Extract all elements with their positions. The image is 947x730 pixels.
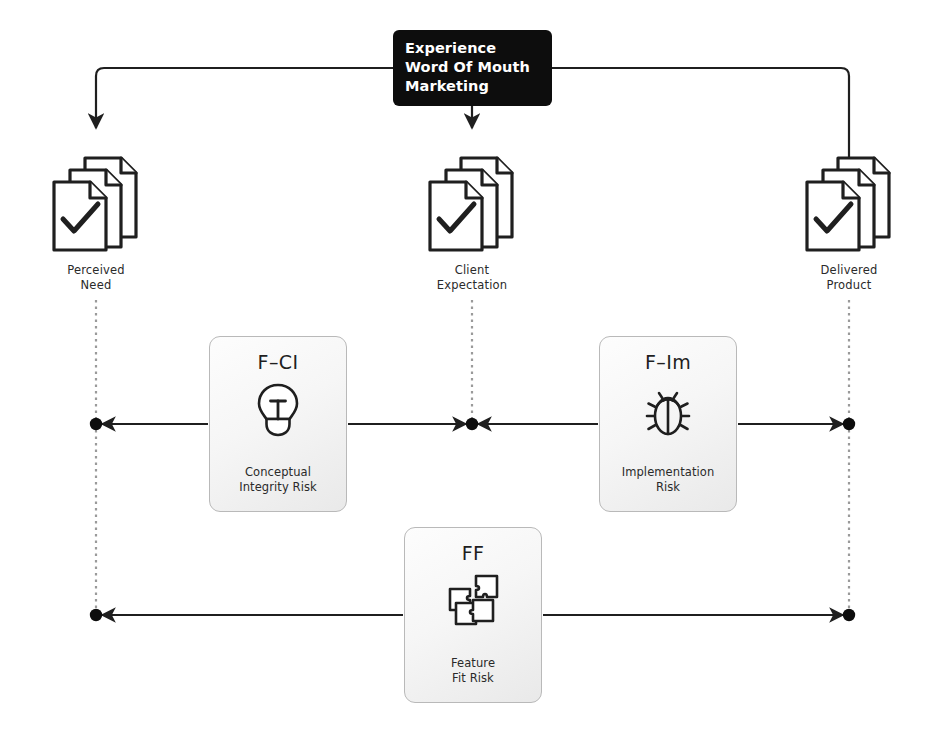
document-stack-check-icon <box>417 152 527 256</box>
wire-root-to-delivered-product <box>552 68 849 158</box>
junction-dot-delivered-product-mid <box>843 418 855 430</box>
node-label-delivered-product: Delivered Product <box>774 263 924 293</box>
node-label-line-2: Need <box>81 278 112 292</box>
diagram-canvas: Experience Word Of Mouth Marketing Perce… <box>0 0 947 730</box>
card-label-line-2: Risk <box>656 480 680 494</box>
card-label-f-ci: Conceptual Integrity Risk <box>239 465 317 495</box>
root-box-line-2: Word Of Mouth <box>405 58 552 77</box>
node-label-line-1: Perceived <box>67 263 125 277</box>
junction-dot-perceived-need-bottom <box>90 609 102 621</box>
node-delivered-product[interactable]: Delivered Product <box>774 152 924 293</box>
root-box-line-1: Experience <box>405 39 552 58</box>
card-code-ff: FF <box>462 542 485 564</box>
card-label-line-2: Integrity Risk <box>239 480 317 494</box>
card-label-ff: Feature Fit Risk <box>451 656 495 686</box>
wire-root-to-perceived-need <box>96 68 393 128</box>
node-perceived-need[interactable]: Perceived Need <box>21 152 171 293</box>
card-label-f-im: Implementation Risk <box>622 465 715 495</box>
root-box-line-3: Marketing <box>405 77 552 96</box>
card-f-ci[interactable]: F–CI Conceptual Integrity Risk <box>209 336 347 512</box>
experience-word-of-mouth-marketing-box[interactable]: Experience Word Of Mouth Marketing <box>393 30 552 106</box>
lightbulb-icon <box>247 379 309 441</box>
card-code-f-im: F–Im <box>645 351 691 373</box>
node-label-line-2: Expectation <box>437 278 508 292</box>
card-ff[interactable]: FF Feature Fit Risk <box>404 527 542 703</box>
node-label-line-1: Client <box>455 263 490 277</box>
junction-dot-delivered-product-bottom <box>843 609 855 621</box>
document-stack-check-icon <box>794 152 904 256</box>
card-label-line-2: Fit Risk <box>452 671 494 685</box>
card-code-f-ci: F–CI <box>258 351 299 373</box>
bug-icon <box>637 379 699 441</box>
card-label-line-1: Feature <box>451 656 495 670</box>
junction-dot-client-expectation-mid <box>466 418 478 430</box>
document-stack-check-icon <box>41 152 151 256</box>
junction-dot-perceived-need-mid <box>90 418 102 430</box>
node-label-perceived-need: Perceived Need <box>21 263 171 293</box>
node-label-client-expectation: Client Expectation <box>397 263 547 293</box>
card-f-im[interactable]: F–Im Implementation Risk <box>599 336 737 512</box>
puzzle-pieces-icon <box>442 570 504 632</box>
node-label-line-2: Product <box>826 278 871 292</box>
card-label-line-1: Conceptual <box>245 465 311 479</box>
node-label-line-1: Delivered <box>821 263 878 277</box>
card-label-line-1: Implementation <box>622 465 715 479</box>
node-client-expectation[interactable]: Client Expectation <box>397 152 547 293</box>
